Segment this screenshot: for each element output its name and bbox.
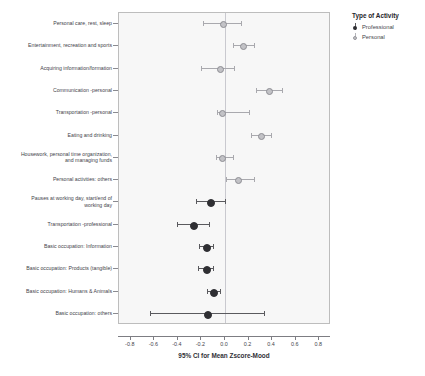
x-axis-tick-label: -0.6 xyxy=(149,341,158,347)
ci-end-cap xyxy=(150,311,151,316)
ci-end-cap xyxy=(201,66,202,71)
ci-end-cap xyxy=(233,43,234,48)
ci-end-cap xyxy=(213,244,214,249)
mean-marker xyxy=(204,311,212,319)
y-axis-label: Communication -personal xyxy=(0,87,112,93)
mean-marker xyxy=(207,199,215,207)
ci-end-cap xyxy=(264,311,265,316)
y-axis-tick xyxy=(113,157,118,158)
y-axis-label: Personal activities: others xyxy=(0,176,112,182)
x-axis-tick-label: 0.2 xyxy=(244,341,252,347)
y-axis-label: Basic occupation: Products (tangible) xyxy=(0,265,112,271)
x-axis-tick-label: 0.0 xyxy=(220,341,228,347)
ci-end-cap xyxy=(254,177,255,182)
y-axis-tick xyxy=(113,224,118,225)
x-axis-tick xyxy=(318,336,319,340)
ci-end-cap xyxy=(217,110,218,115)
y-axis-label: Basic occupation: others xyxy=(0,310,112,316)
ci-end-cap xyxy=(203,21,204,26)
y-axis-tick xyxy=(113,135,118,136)
y-axis-label: Entertainment, recreation and sports xyxy=(0,42,112,48)
y-axis-labels: Personal care, rest, sleepEntertainment,… xyxy=(0,12,112,324)
ci-end-cap xyxy=(251,133,252,138)
legend-item-label: Personal xyxy=(362,34,385,40)
y-axis-label: Pauses at working day, start/end of work… xyxy=(0,195,112,207)
legend-item-label: Professional xyxy=(362,24,394,30)
legend: Type of Activity ProfessionalPersonal xyxy=(352,12,422,43)
mean-marker xyxy=(266,88,273,95)
y-axis-label: Transportation -professional xyxy=(0,221,112,227)
zero-reference-line xyxy=(225,13,226,323)
x-axis-tick-label: -0.4 xyxy=(172,341,181,347)
x-axis-tick xyxy=(224,336,225,340)
y-axis-tick xyxy=(113,45,118,46)
mean-marker xyxy=(258,133,265,140)
x-axis-tick xyxy=(295,336,296,340)
y-axis-tick xyxy=(113,201,118,202)
y-axis-tick xyxy=(113,291,118,292)
legend-item[interactable]: Personal xyxy=(352,33,422,40)
ci-end-cap xyxy=(256,88,257,93)
mean-marker xyxy=(235,177,242,184)
legend-title: Type of Activity xyxy=(352,12,422,19)
ci-end-cap xyxy=(209,222,210,227)
mean-marker xyxy=(203,244,211,252)
x-axis-tick xyxy=(200,336,201,340)
ci-end-cap xyxy=(249,110,250,115)
x-axis-tick xyxy=(271,336,272,340)
y-axis-tick xyxy=(113,90,118,91)
legend-marker-icon xyxy=(352,23,359,30)
x-axis-tick xyxy=(177,336,178,340)
x-axis-tick-label: -0.2 xyxy=(196,341,205,347)
ci-end-cap xyxy=(271,133,272,138)
y-axis-tick xyxy=(113,68,118,69)
x-axis-tick-label: -0.8 xyxy=(125,341,134,347)
y-axis-tick xyxy=(113,23,118,24)
ci-end-cap xyxy=(226,177,227,182)
y-axis-label: Transportation -personal xyxy=(0,109,112,115)
x-axis-tick xyxy=(248,336,249,340)
legend-marker-icon xyxy=(352,33,359,40)
ci-end-cap xyxy=(177,222,178,227)
mean-marker xyxy=(210,289,218,297)
plot-area xyxy=(118,12,330,324)
ci-end-cap xyxy=(233,155,234,160)
mean-marker xyxy=(219,155,226,162)
mean-marker xyxy=(220,21,227,28)
y-axis-tick xyxy=(113,268,118,269)
ci-end-cap xyxy=(254,43,255,48)
x-axis-title: 95% CI for Mean Zscore-Mood xyxy=(118,352,330,359)
ci-end-cap xyxy=(241,21,242,26)
ci-end-cap xyxy=(213,266,214,271)
ci-end-cap xyxy=(196,199,197,204)
y-axis-label: Basic occupation: Humans & Animals xyxy=(0,287,112,293)
ci-end-cap xyxy=(199,244,200,249)
ci-end-cap xyxy=(282,88,283,93)
ci-end-cap xyxy=(198,266,199,271)
y-axis-label: Personal care, rest, sleep xyxy=(0,20,112,26)
ci-end-cap xyxy=(216,155,217,160)
y-axis-label: Acquiring information/formation xyxy=(0,65,112,71)
y-axis-tick xyxy=(113,246,118,247)
ci-end-cap xyxy=(207,289,208,294)
ci-end-cap xyxy=(225,199,226,204)
x-axis-tick xyxy=(153,336,154,340)
mean-marker xyxy=(190,222,198,230)
y-axis-tick xyxy=(113,112,118,113)
x-axis-tick xyxy=(130,336,131,340)
x-axis-tick-label: 0.8 xyxy=(314,341,322,347)
mean-marker xyxy=(240,43,247,50)
y-axis-label: Eating and drinking xyxy=(0,131,112,137)
y-axis-label: Housework, personal time organization, a… xyxy=(0,151,112,163)
legend-items: ProfessionalPersonal xyxy=(352,23,422,40)
mean-marker xyxy=(217,66,224,73)
x-axis-tick-label: 0.4 xyxy=(267,341,275,347)
legend-item[interactable]: Professional xyxy=(352,23,422,30)
y-axis-label: Basic occupation: Information xyxy=(0,243,112,249)
y-axis-tick xyxy=(113,313,118,314)
x-axis-tick-label: 0.6 xyxy=(291,341,299,347)
ci-end-cap xyxy=(220,289,221,294)
mean-marker xyxy=(203,266,211,274)
chart-root: Personal care, rest, sleepEntertainment,… xyxy=(0,0,425,376)
y-axis-tick xyxy=(113,179,118,180)
